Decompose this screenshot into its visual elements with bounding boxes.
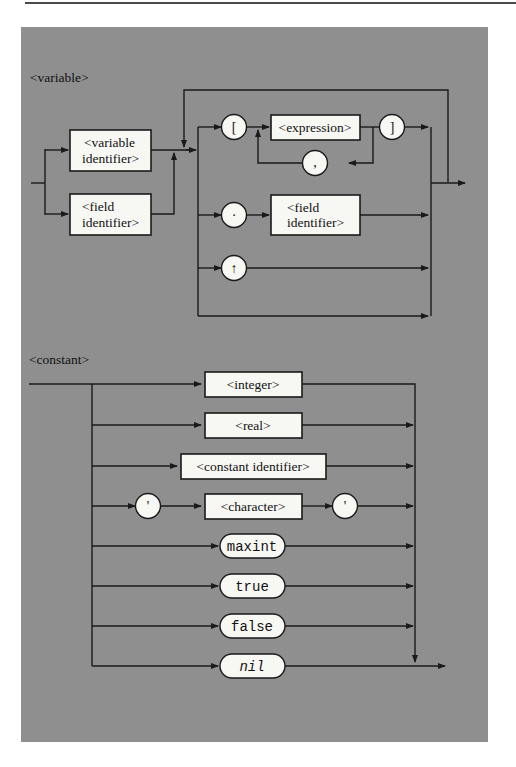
svg-text:identifier>: identifier> bbox=[82, 215, 139, 230]
svg-text:nil: nil bbox=[239, 659, 264, 675]
svg-text:<integer>: <integer> bbox=[227, 377, 280, 392]
svg-text:<variable: <variable bbox=[84, 135, 135, 150]
svg-text:': ' bbox=[147, 499, 150, 514]
svg-text:<expression>: <expression> bbox=[279, 120, 352, 135]
constant-title: <constant> bbox=[29, 352, 89, 367]
svg-text:[: [ bbox=[232, 120, 237, 135]
svg-text:identifier>: identifier> bbox=[82, 151, 139, 166]
svg-text:↑: ↑ bbox=[231, 261, 238, 276]
variable-title: <variable> bbox=[30, 70, 89, 85]
variable-diagram: <variable> <variable identifier> <field … bbox=[30, 70, 465, 316]
svg-text:false: false bbox=[231, 619, 273, 635]
constant-diagram: <constant> <integer> <real> <constant id… bbox=[29, 352, 445, 678]
svg-text:maxint: maxint bbox=[227, 539, 277, 555]
svg-text:·: · bbox=[232, 208, 237, 223]
svg-text:<real>: <real> bbox=[235, 418, 270, 433]
svg-text:true: true bbox=[235, 579, 269, 595]
syntax-diagrams: <variable> <variable identifier> <field … bbox=[0, 0, 516, 767]
svg-text:<constant identifier>: <constant identifier> bbox=[196, 459, 309, 474]
svg-text:<field: <field bbox=[287, 200, 320, 215]
svg-text:<character>: <character> bbox=[221, 499, 286, 514]
svg-text:<field: <field bbox=[82, 199, 115, 214]
svg-text:]: ] bbox=[390, 120, 395, 135]
svg-text:identifier>: identifier> bbox=[287, 215, 344, 230]
svg-text:,: , bbox=[313, 155, 317, 170]
svg-text:': ' bbox=[344, 499, 347, 514]
